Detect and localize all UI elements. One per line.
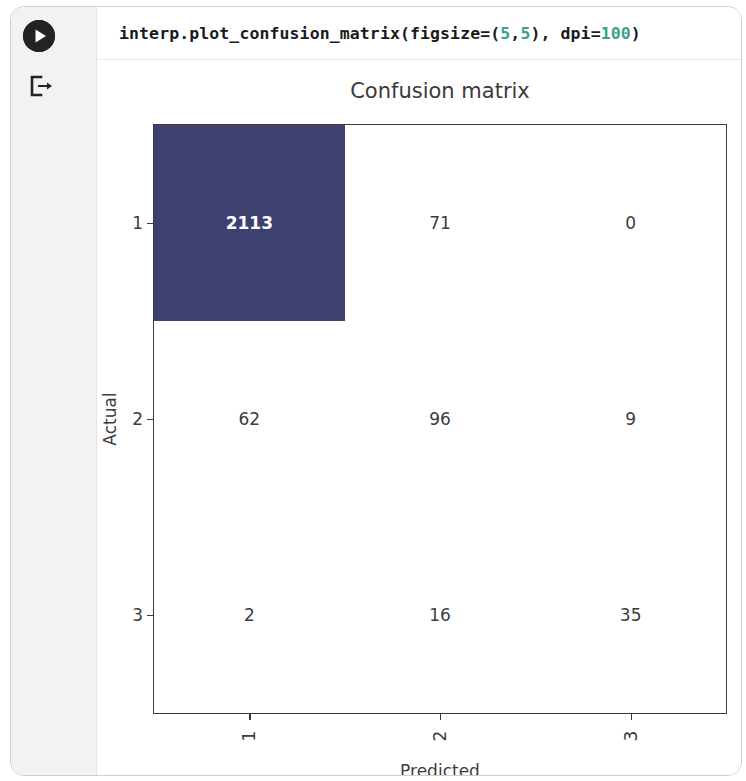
matrix-cell-3-2: 16 (345, 517, 536, 713)
confusion-matrix-grid: 2113 71 0 62 96 9 2 16 35 (154, 125, 726, 713)
y-tick-label-3: 3 (132, 605, 143, 625)
y-axis-label: Actual (100, 392, 120, 445)
x-tick-label-3: 3 (621, 731, 641, 742)
output-arrow-icon (25, 71, 55, 101)
x-tick-mark-3 (631, 713, 632, 720)
y-tick-label-1: 1 (132, 213, 143, 233)
matrix-cell-3-3: 35 (535, 517, 726, 713)
matrix-cell-1-1: 2113 (154, 125, 345, 321)
x-tick-label-1: 1 (239, 731, 259, 742)
play-icon[interactable] (23, 20, 55, 52)
code-text-comma: , (510, 24, 520, 43)
matrix-cell-2-2: 96 (345, 321, 536, 517)
matrix-cell-1-2: 71 (345, 125, 536, 321)
matrix-cell-2-3: 9 (535, 321, 726, 517)
matrix-cell-3-1: 2 (154, 517, 345, 713)
y-tick-mark-3 (147, 615, 154, 616)
x-axis-label: Predicted (400, 761, 480, 776)
code-text-part3: ) (631, 24, 641, 43)
y-tick-mark-1 (147, 223, 154, 224)
code-text-part1: interp.plot_confusion_matrix(figsize=( (119, 24, 500, 43)
code-text-part2: ), dpi= (530, 24, 600, 43)
code-number-dpi: 100 (601, 24, 631, 43)
x-tick-mark-2 (440, 713, 441, 720)
y-tick-mark-2 (147, 419, 154, 420)
code-number-figsize-h: 5 (520, 24, 530, 43)
x-tick-label-2: 2 (430, 731, 450, 742)
code-number-figsize-w: 5 (500, 24, 510, 43)
code-input-line[interactable]: interp.plot_confusion_matrix(figsize=(5,… (97, 7, 741, 59)
notebook-cell: interp.plot_confusion_matrix(figsize=(5,… (10, 6, 742, 776)
matrix-cell-1-3: 0 (535, 125, 726, 321)
figure-output: Confusion matrix 2113 71 0 62 96 9 2 16 … (97, 60, 741, 775)
cell-gutter (11, 7, 97, 775)
matrix-cell-2-1: 62 (154, 321, 345, 517)
y-tick-label-2: 2 (132, 409, 143, 429)
confusion-matrix-axes: 2113 71 0 62 96 9 2 16 35 1 2 3 Actual (153, 124, 727, 714)
chart-title: Confusion matrix (97, 79, 742, 103)
x-tick-mark-1 (249, 713, 250, 720)
